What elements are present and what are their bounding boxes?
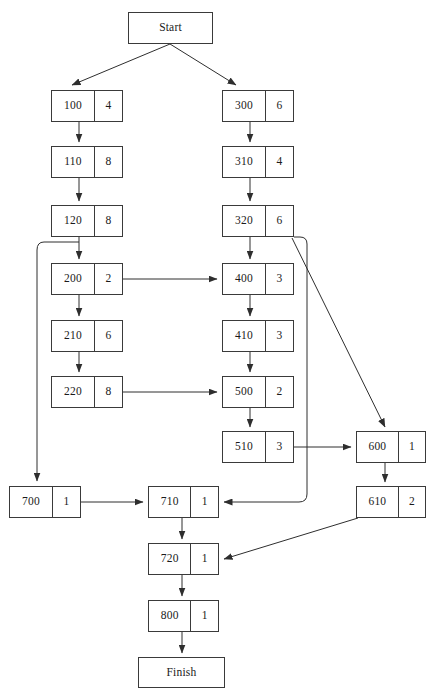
node-600[interactable]: 600 1 xyxy=(356,431,426,463)
node-500[interactable]: 500 2 xyxy=(222,376,294,408)
node-400-id: 400 xyxy=(223,264,266,294)
node-700-count: 1 xyxy=(53,487,80,517)
node-100-count: 4 xyxy=(95,91,122,121)
node-720[interactable]: 720 1 xyxy=(148,543,219,575)
node-320-id: 320 xyxy=(223,206,266,236)
node-start[interactable]: Start xyxy=(128,12,213,44)
node-600-count: 1 xyxy=(399,432,425,462)
node-210[interactable]: 210 6 xyxy=(51,320,123,352)
node-310-count: 4 xyxy=(266,147,293,177)
node-110[interactable]: 110 8 xyxy=(51,146,123,178)
node-300-id: 300 xyxy=(223,91,266,121)
node-600-id: 600 xyxy=(357,432,399,462)
node-710[interactable]: 710 1 xyxy=(148,486,219,518)
node-200-id: 200 xyxy=(52,264,95,294)
node-510-count: 3 xyxy=(266,432,293,462)
node-610-id: 610 xyxy=(357,487,399,517)
node-210-id: 210 xyxy=(52,321,95,351)
node-110-count: 8 xyxy=(95,147,122,177)
node-710-count: 1 xyxy=(191,487,218,517)
node-720-count: 1 xyxy=(191,544,218,574)
node-410[interactable]: 410 3 xyxy=(222,320,294,352)
node-610[interactable]: 610 2 xyxy=(356,486,426,518)
edge-610-to-720 xyxy=(224,518,358,559)
node-710-id: 710 xyxy=(149,487,191,517)
node-400-count: 3 xyxy=(266,264,293,294)
flow-diagram-canvas: Start 100 4 110 8 120 8 200 2 210 6 220 … xyxy=(0,0,433,696)
node-800-count: 1 xyxy=(191,601,218,631)
node-510-id: 510 xyxy=(223,432,266,462)
node-700[interactable]: 700 1 xyxy=(9,486,81,518)
node-610-count: 2 xyxy=(399,487,425,517)
node-220-id: 220 xyxy=(52,377,95,407)
node-200[interactable]: 200 2 xyxy=(51,263,123,295)
node-120[interactable]: 120 8 xyxy=(51,205,123,237)
node-100[interactable]: 100 4 xyxy=(51,90,123,122)
node-220[interactable]: 220 8 xyxy=(51,376,123,408)
node-120-id: 120 xyxy=(52,206,95,236)
node-720-id: 720 xyxy=(149,544,191,574)
node-110-id: 110 xyxy=(52,147,95,177)
node-410-count: 3 xyxy=(266,321,293,351)
node-200-count: 2 xyxy=(95,264,122,294)
node-700-id: 700 xyxy=(10,487,53,517)
node-finish[interactable]: Finish xyxy=(138,657,225,688)
node-320-count: 6 xyxy=(266,206,293,236)
node-210-count: 6 xyxy=(95,321,122,351)
node-310-id: 310 xyxy=(223,147,266,177)
node-100-id: 100 xyxy=(52,91,95,121)
edge-320-to-600 xyxy=(292,238,385,427)
edge-start-to-300 xyxy=(170,44,236,85)
node-320[interactable]: 320 6 xyxy=(222,205,294,237)
node-500-count: 2 xyxy=(266,377,293,407)
node-300-count: 6 xyxy=(266,91,293,121)
node-500-id: 500 xyxy=(223,377,266,407)
node-finish-label: Finish xyxy=(139,658,224,687)
node-start-label: Start xyxy=(129,13,212,43)
node-300[interactable]: 300 6 xyxy=(222,90,294,122)
edge-start-to-100 xyxy=(72,44,170,85)
node-400[interactable]: 400 3 xyxy=(222,263,294,295)
node-220-count: 8 xyxy=(95,377,122,407)
node-800-id: 800 xyxy=(149,601,191,631)
node-410-id: 410 xyxy=(223,321,266,351)
node-120-count: 8 xyxy=(95,206,122,236)
node-310[interactable]: 310 4 xyxy=(222,146,294,178)
node-800[interactable]: 800 1 xyxy=(148,600,219,632)
node-510[interactable]: 510 3 xyxy=(222,431,294,463)
